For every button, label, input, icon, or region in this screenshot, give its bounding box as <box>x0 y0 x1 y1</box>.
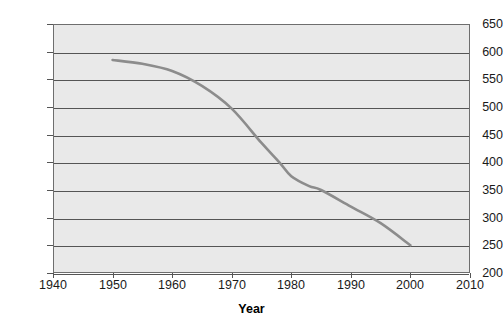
gridline <box>54 108 469 109</box>
y-tick-mark <box>47 52 53 53</box>
gridline <box>54 80 469 81</box>
y-tick-mark <box>47 162 53 163</box>
y-tick-label: 300 <box>461 212 503 225</box>
x-tick-label: 1940 <box>23 279 83 292</box>
y-tick-label: 250 <box>461 239 503 252</box>
y-tick-label: 550 <box>461 73 503 86</box>
x-tick-label: 1950 <box>83 279 143 292</box>
gridline <box>54 136 469 137</box>
gridline <box>54 53 469 54</box>
y-tick-mark <box>47 135 53 136</box>
gridline <box>54 163 469 164</box>
x-tick-label: 1970 <box>202 279 262 292</box>
y-tick-label: 350 <box>461 184 503 197</box>
x-axis-title: Year <box>0 302 503 316</box>
y-tick-mark <box>47 24 53 25</box>
y-tick-mark <box>47 245 53 246</box>
x-tick-label: 1990 <box>321 279 381 292</box>
gridline <box>54 246 469 247</box>
gridline <box>54 219 469 220</box>
y-tick-mark <box>47 218 53 219</box>
line-chart: 650600550500450400350300250200 194019501… <box>0 0 503 332</box>
y-tick-label: 500 <box>461 101 503 114</box>
y-tick-label: 400 <box>461 156 503 169</box>
y-tick-mark <box>47 79 53 80</box>
x-tick-label: 2010 <box>440 279 500 292</box>
x-tick-label: 2000 <box>380 279 440 292</box>
gridline <box>54 191 469 192</box>
x-tick-label: 1960 <box>142 279 202 292</box>
y-tick-label: 650 <box>461 18 503 31</box>
plot-area <box>53 24 470 273</box>
y-tick-mark <box>47 190 53 191</box>
y-tick-label: 600 <box>461 46 503 59</box>
x-tick-label: 1980 <box>261 279 321 292</box>
y-tick-mark <box>47 107 53 108</box>
gridline <box>54 274 469 275</box>
y-tick-label: 450 <box>461 129 503 142</box>
